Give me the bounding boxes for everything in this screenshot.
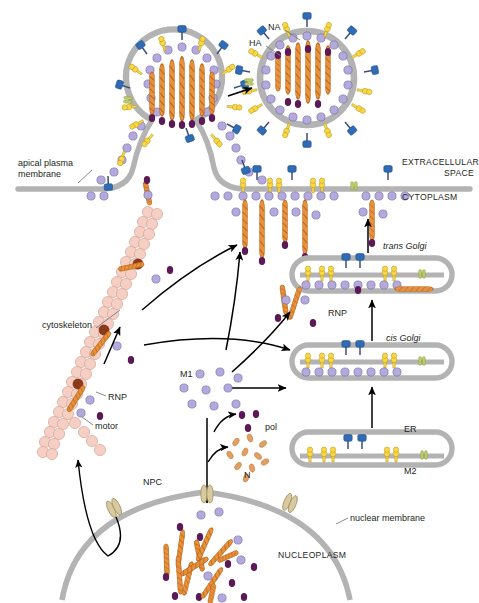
label-pol: pol bbox=[265, 422, 277, 432]
arrow-pol-import bbox=[214, 414, 236, 432]
label-cytoplasm: CYTOPLASM bbox=[402, 192, 458, 202]
arrow-cytoplasm-to-golgi bbox=[144, 339, 290, 350]
label-trans-golgi: trans Golgi bbox=[383, 241, 427, 251]
nucleoplasm-rnps bbox=[163, 508, 257, 603]
endoplasmic-reticulum bbox=[292, 432, 452, 465]
label-nuclear-membrane: nuclear membrane bbox=[350, 513, 425, 523]
label-ha: HA bbox=[249, 38, 262, 48]
label-extracellular-space-line1: EXTRACELLULAR bbox=[402, 157, 479, 167]
budding-virion-spikes bbox=[104, 26, 251, 191]
arrow-n-import bbox=[208, 447, 228, 462]
label-cis-golgi: cis Golgi bbox=[386, 333, 421, 343]
label-cytoskeleton: cytoskeleton bbox=[42, 320, 92, 330]
label-npc: NPC bbox=[143, 477, 162, 487]
label-n: N bbox=[244, 470, 251, 480]
plasma-membrane-m1-layer bbox=[87, 192, 409, 200]
label-apical-plasma-membrane-line1: apical plasma bbox=[18, 158, 73, 168]
label-nucleoplasm: NUCLEOPLASM bbox=[278, 550, 346, 560]
cis-golgi bbox=[292, 341, 452, 378]
released-virion-pol-caps bbox=[275, 45, 331, 108]
released-virion-rnps bbox=[276, 41, 331, 103]
label-rnp-cytoskeleton: RNP bbox=[108, 392, 127, 402]
label-motor: motor bbox=[95, 421, 118, 431]
cytoskeleton-filament bbox=[37, 176, 173, 460]
released-virion bbox=[235, 13, 379, 148]
label-m2: M2 bbox=[404, 466, 417, 476]
label-rnp-golgi: RNP bbox=[328, 308, 347, 318]
label-er: ER bbox=[404, 424, 417, 434]
budding-virion bbox=[97, 26, 266, 191]
label-apical-plasma-membrane-line2: membrane bbox=[18, 169, 61, 179]
trans-golgi bbox=[292, 254, 452, 294]
pol-protein-pool bbox=[239, 410, 259, 432]
label-na: NA bbox=[268, 22, 281, 32]
label-extracellular-space-line2: SPACE bbox=[402, 168, 474, 178]
arrow-m1-to-membrane bbox=[226, 252, 240, 350]
label-m1: M1 bbox=[180, 369, 193, 379]
